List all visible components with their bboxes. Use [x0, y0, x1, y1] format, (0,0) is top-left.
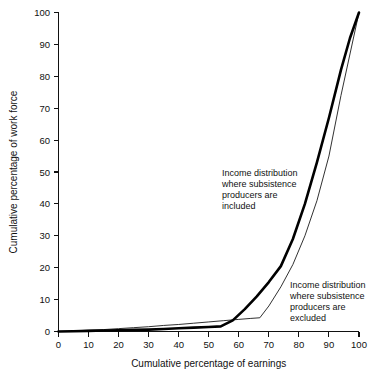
chart-svg: 100 90 80 70 60 50 40 30 20 10 0	[0, 0, 378, 373]
lorenz-curve-figure: 100 90 80 70 60 50 40 30 20 10 0	[0, 0, 378, 373]
x-tick-label: 100	[351, 339, 367, 350]
annotation-included-line: included	[222, 201, 256, 211]
x-tick-label: 50	[203, 339, 214, 350]
annotation-excluded-line: where subsistence	[289, 291, 365, 301]
y-tick-label: 0	[45, 326, 50, 337]
y-tick-label: 30	[39, 230, 50, 241]
x-tick-label: 0	[56, 339, 61, 350]
y-tick-label: 40	[39, 198, 50, 209]
y-tick-label: 20	[39, 262, 50, 273]
x-tick-label: 80	[294, 339, 305, 350]
x-tick-label: 70	[264, 339, 275, 350]
x-tick-label: 10	[83, 339, 94, 350]
annotation-excluded-line: Income distribution	[290, 280, 366, 290]
x-tick-label: 30	[143, 339, 154, 350]
y-tick-label: 80	[39, 71, 50, 82]
annotation-included-line: Income distribution	[222, 168, 298, 178]
y-tick-label: 50	[39, 167, 50, 178]
x-tick-label: 60	[234, 339, 245, 350]
x-tick-label: 20	[113, 339, 124, 350]
y-tick-label: 100	[34, 7, 50, 18]
annotation-included-line: producers are	[222, 190, 278, 200]
annotation-excluded-line: excluded	[290, 313, 326, 323]
y-tick-label: 10	[39, 294, 50, 305]
y-axis-title: Cumulative percentage of work force	[8, 90, 19, 253]
x-tick-label: 90	[324, 339, 335, 350]
annotation-included-line: where subsistence	[221, 179, 297, 189]
annotation-excluded-line: producers are	[290, 302, 346, 312]
y-tick-label: 90	[39, 39, 50, 50]
x-tick-label: 40	[173, 339, 184, 350]
y-tick-label: 60	[39, 135, 50, 146]
y-tick-label: 70	[39, 103, 50, 114]
x-axis-title: Cumulative percentage of earnings	[131, 358, 286, 369]
